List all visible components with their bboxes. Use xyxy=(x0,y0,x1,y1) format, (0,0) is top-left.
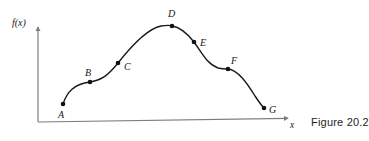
curve-point-e xyxy=(192,40,197,45)
figure-caption: Figure 20.2 xyxy=(311,117,369,128)
curve-point-c xyxy=(116,61,121,66)
point-label-e: E xyxy=(200,38,206,48)
point-label-d: D xyxy=(168,9,175,19)
point-label-a: A xyxy=(58,110,64,120)
figure-container: f(x) x ABCDEFG Figure 20.2 xyxy=(0,0,369,141)
curve-point-f xyxy=(226,67,231,72)
curve-point-a xyxy=(61,102,66,107)
x-axis-label: x xyxy=(290,121,294,131)
curve-point-d xyxy=(170,24,175,29)
curve-point-b xyxy=(88,80,93,85)
point-label-f: F xyxy=(231,56,237,66)
function-curve xyxy=(63,25,264,108)
curve-point-markers xyxy=(61,24,267,111)
x-axis-line xyxy=(38,118,288,122)
y-axis-label: f(x) xyxy=(12,18,26,28)
point-label-g: G xyxy=(269,105,276,115)
curve-point-g xyxy=(262,106,267,111)
point-label-b: B xyxy=(85,68,91,78)
point-label-c: C xyxy=(124,62,131,72)
